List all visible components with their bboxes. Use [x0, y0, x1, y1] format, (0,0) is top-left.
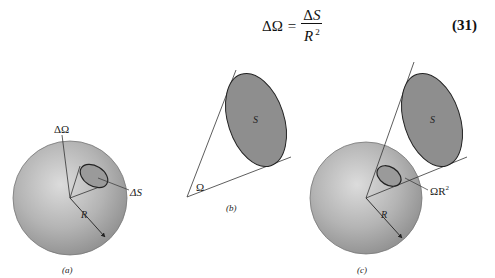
label-radius-a: R — [80, 209, 87, 220]
caption-b: (b) — [226, 203, 237, 213]
panel-a: ΔΩ ΔS R (a) — [13, 123, 142, 275]
label-surface-b: S — [253, 114, 258, 125]
label-surface-c: S — [430, 114, 435, 125]
caption-c: (c) — [357, 265, 367, 275]
label-angle-b: Ω — [196, 181, 204, 193]
label-area-a: ΔS — [129, 186, 142, 198]
label-radius-c: R — [380, 209, 387, 220]
caption-a: (a) — [62, 265, 73, 275]
label-projected-c: ΩR2 — [430, 184, 450, 197]
label-solid-angle-a: ΔΩ — [54, 123, 69, 135]
panel-b: S Ω (b) — [187, 66, 297, 213]
panel-c: S ΩR2 R (c) — [310, 62, 473, 275]
solid-angle-figure: ΔΩ ΔS R (a) S Ω (b) S ΩR2 R (c) — [0, 0, 495, 278]
